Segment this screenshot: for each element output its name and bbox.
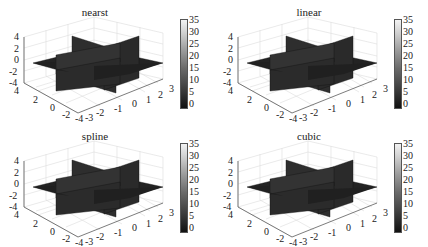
x-tick: 1 [360,95,365,105]
z-tick: 4 [14,156,19,166]
z-tick: 2 [14,44,19,54]
x-tick: 0 [132,99,137,109]
x-tick: -1 [328,104,336,114]
colorbar-tick: 10 [189,199,199,209]
colorbar [180,143,188,233]
y-tick: -2 [276,234,284,244]
y-tick: -4 [289,114,297,124]
colorbar-tick: 35 [403,139,413,149]
y-tick: -2 [276,110,284,120]
colorbar-tick: 15 [403,63,413,73]
x-tick: -2 [96,232,104,242]
colorbar-tick: 25 [403,39,413,49]
x-tick: -3 [85,113,93,123]
colorbar-tick: 35 [189,15,199,25]
subplot-title: cubic [279,130,339,142]
subplot-nearst: nearst 35 30 25 20 15 10 5 0 4 2 0 -2 -4… [0,0,214,124]
z-tick: 0 [14,179,19,189]
z-tick: 0 [14,55,19,65]
subplot-title: linear [279,6,339,18]
y-tick: -4 [75,114,83,124]
x-tick: 3 [169,84,174,94]
x-tick: -2 [310,232,318,242]
x-tick: -1 [114,104,122,114]
x-tick: 1 [146,95,151,105]
x-tick: 0 [346,223,351,233]
subplot-linear: linear 35 30 25 20 15 10 5 0 4 2 0 -2 -4… [214,0,428,124]
y-tick: 0 [264,227,269,237]
subplot-title: nearst [65,6,125,18]
colorbar-tick: 25 [189,163,199,173]
colorbar-tick: 35 [403,15,413,25]
volume-slices [247,36,377,93]
z-tick: -2 [9,67,17,77]
y-tick: 4 [228,210,233,220]
colorbar-tick: 20 [189,51,199,61]
colorbar-tick: 35 [189,139,199,149]
y-tick: 4 [14,86,19,96]
z-tick: 4 [14,32,19,42]
x-tick: 3 [383,84,388,94]
subplot-title: spline [65,130,125,142]
x-tick: 2 [372,214,377,224]
x-tick: 0 [132,223,137,233]
colorbar-tick: 10 [189,75,199,85]
colorbar-tick: 15 [189,187,199,197]
colorbar-tick: 15 [189,63,199,73]
z-tick: -2 [223,191,231,201]
x-tick: 1 [146,219,151,229]
colorbar [394,143,402,233]
z-tick: 4 [228,156,233,166]
colorbar-tick: 30 [189,27,199,37]
z-tick: 4 [228,32,233,42]
colorbar-tick: 5 [189,87,194,97]
x-tick: -3 [299,237,307,247]
colorbar [394,19,402,109]
x-tick: -2 [96,108,104,118]
colorbar-tick: 30 [189,151,199,161]
colorbar-tick: 30 [403,27,413,37]
volume-slices [33,160,163,217]
colorbar-tick: 10 [403,75,413,85]
z-tick: 2 [228,44,233,54]
x-tick: 2 [372,90,377,100]
y-tick: 0 [50,103,55,113]
x-tick: -3 [299,113,307,123]
z-tick: 0 [228,179,233,189]
x-tick: 1 [360,219,365,229]
colorbar-tick: 0 [189,223,194,233]
y-tick: -4 [75,238,83,247]
x-tick: 2 [158,90,163,100]
z-tick: -2 [223,67,231,77]
colorbar-tick: 25 [189,39,199,49]
x-tick: -2 [310,108,318,118]
colorbar-tick: 20 [189,175,199,185]
y-tick: 2 [33,219,38,229]
volume-slices [247,160,377,217]
y-tick: 4 [14,210,19,220]
colorbar-tick: 5 [189,211,194,221]
y-tick: -4 [289,238,297,247]
y-tick: 4 [228,86,233,96]
y-tick: 2 [33,95,38,105]
colorbar-tick: 20 [403,175,413,185]
colorbar-tick: 5 [403,211,408,221]
x-tick: 2 [158,214,163,224]
y-tick: 2 [247,95,252,105]
z-tick: -2 [9,191,17,201]
colorbar-tick: 0 [189,99,194,109]
x-tick: -1 [114,228,122,238]
y-tick: 2 [247,219,252,229]
subplot-cubic: cubic 35 30 25 20 15 10 5 0 4 2 0 -2 -4 … [214,124,428,247]
subplot-spline: spline 35 30 25 20 15 10 5 0 4 2 0 -2 -4… [0,124,214,247]
colorbar-tick: 15 [403,187,413,197]
x-tick: 0 [346,99,351,109]
y-tick: -2 [62,110,70,120]
colorbar-tick: 0 [403,223,408,233]
x-tick: -1 [328,228,336,238]
y-tick: -2 [62,234,70,244]
colorbar-tick: 30 [403,151,413,161]
colorbar-tick: 25 [403,163,413,173]
colorbar-tick: 20 [403,51,413,61]
z-tick: 0 [228,55,233,65]
